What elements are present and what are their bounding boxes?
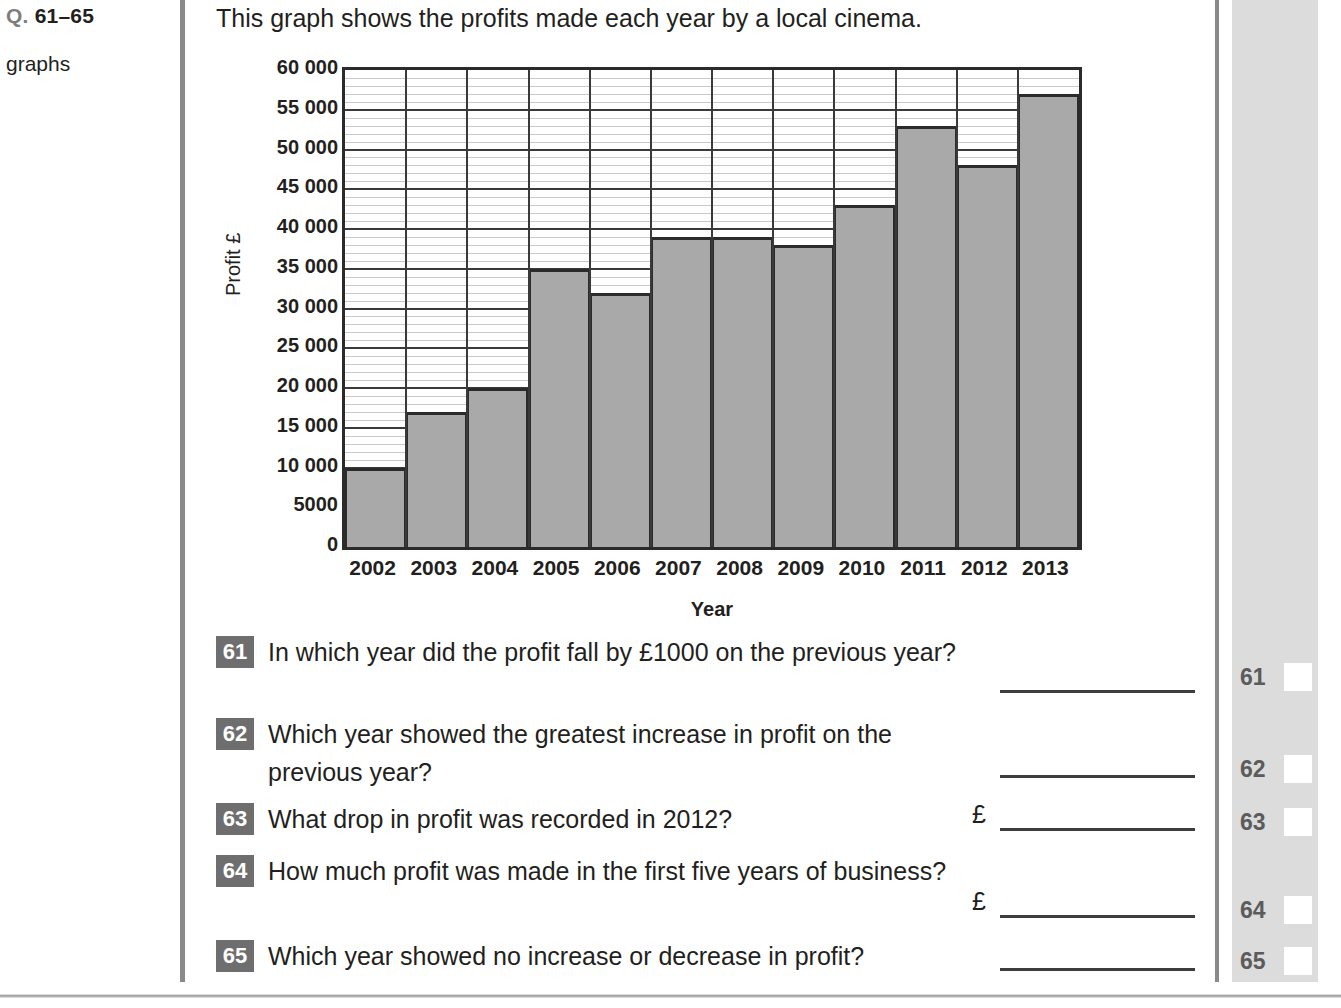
question-text-61: In which year did the profit fall by £10…	[268, 633, 968, 671]
worksheet-page: Q. 61–65 graphs This graph shows the pro…	[0, 0, 1341, 1008]
bottom-rule	[0, 994, 1341, 998]
y-tick-label: 15 000	[242, 415, 338, 435]
marking-number-64: 64	[1240, 893, 1266, 927]
column-separator	[405, 70, 407, 547]
answer-line-63[interactable]	[1000, 828, 1195, 831]
marking-row-64: 64	[1232, 893, 1318, 927]
intro-text: This graph shows the profits made each y…	[216, 2, 922, 34]
x-tick-label-2013: 2013	[1015, 556, 1076, 580]
column-separator	[1017, 70, 1019, 547]
column-separator	[466, 70, 468, 547]
left-vertical-divider	[180, 0, 185, 982]
question-prefix: Q.	[6, 4, 29, 27]
y-tick-label: 35 000	[242, 256, 338, 276]
answer-line-64[interactable]	[1000, 915, 1195, 918]
question-range: 61–65	[35, 4, 94, 27]
column-separator	[956, 70, 958, 547]
bar-2003	[406, 412, 467, 547]
bar-2004	[467, 388, 528, 547]
question-number-badge-62: 62	[216, 718, 254, 750]
marking-number-61: 61	[1240, 660, 1266, 694]
x-tick-label-2008: 2008	[709, 556, 770, 580]
marking-row-65: 65	[1232, 944, 1318, 978]
answer-line-65[interactable]	[1000, 968, 1195, 971]
answer-line-62[interactable]	[1000, 775, 1195, 778]
y-tick-label: 20 000	[242, 375, 338, 395]
marking-number-63: 63	[1240, 805, 1266, 839]
column-separator	[772, 70, 774, 547]
left-margin: Q. 61–65 graphs	[0, 0, 180, 1008]
bar-2010	[834, 205, 895, 547]
question-number-badge-63: 63	[216, 803, 254, 835]
x-tick-label-2009: 2009	[770, 556, 831, 580]
column-separator	[650, 70, 652, 547]
marking-box-62[interactable]	[1284, 755, 1312, 783]
marking-number-62: 62	[1240, 752, 1266, 786]
x-tick-label-2011: 2011	[893, 556, 954, 580]
bar-2007	[651, 237, 712, 547]
marking-row-63: 63	[1232, 805, 1318, 839]
question-number-badge-65: 65	[216, 940, 254, 972]
bar-2012	[957, 165, 1018, 547]
currency-symbol-64: £	[972, 887, 986, 916]
bar-2002	[345, 468, 406, 548]
marking-box-64[interactable]	[1284, 896, 1312, 924]
plot-area	[342, 67, 1082, 550]
marking-strip: 6162636465	[1232, 0, 1318, 982]
y-tick-label: 55 000	[242, 97, 338, 117]
y-tick-label: 30 000	[242, 296, 338, 316]
y-tick-label: 60 000	[242, 57, 338, 77]
profit-bar-chart: Profit £ 60 00055 00050 00045 00040 0003…	[216, 58, 1096, 628]
currency-symbol-63: £	[972, 800, 986, 829]
topic-label: graphs	[6, 52, 70, 76]
question-number-badge-64: 64	[216, 855, 254, 887]
x-axis-label: Year	[342, 598, 1082, 621]
x-tick-label-2003: 2003	[403, 556, 464, 580]
column-separator	[833, 70, 835, 547]
question-text-63: What drop in profit was recorded in 2012…	[268, 800, 968, 838]
column-separator	[528, 70, 530, 547]
marking-row-62: 62	[1232, 752, 1318, 786]
y-tick-label: 0	[242, 534, 338, 554]
column-separator	[895, 70, 897, 547]
marking-box-61[interactable]	[1284, 663, 1312, 691]
marking-box-63[interactable]	[1284, 808, 1312, 836]
bar-2013	[1018, 94, 1079, 547]
bar-2011	[896, 126, 957, 547]
x-tick-label-2012: 2012	[954, 556, 1015, 580]
question-text-64: How much profit was made in the first fi…	[268, 852, 968, 890]
x-tick-label-2002: 2002	[342, 556, 403, 580]
bar-2009	[773, 245, 834, 547]
y-tick-label: 10 000	[242, 455, 338, 475]
column-separator	[711, 70, 713, 547]
question-range-label: Q. 61–65	[6, 4, 94, 28]
marking-box-65[interactable]	[1284, 947, 1312, 975]
marking-row-61: 61	[1232, 660, 1318, 694]
x-tick-label-2010: 2010	[831, 556, 892, 580]
answer-line-61[interactable]	[1000, 690, 1195, 693]
question-text-65: Which year showed no increase or decreas…	[268, 937, 968, 975]
question-text-62: Which year showed the greatest increase …	[268, 715, 968, 791]
x-tick-label-2006: 2006	[587, 556, 648, 580]
marking-number-65: 65	[1240, 944, 1266, 978]
question-number-badge-61: 61	[216, 636, 254, 668]
bar-2006	[590, 293, 651, 547]
y-axis-ticks: 60 00055 00050 00045 00040 00035 00030 0…	[216, 58, 338, 550]
x-tick-label-2004: 2004	[464, 556, 525, 580]
x-tick-label-2007: 2007	[648, 556, 709, 580]
plot-inner	[345, 70, 1079, 547]
right-vertical-divider	[1215, 0, 1219, 982]
y-tick-label: 40 000	[242, 216, 338, 236]
bar-2008	[712, 237, 773, 547]
column-separator	[589, 70, 591, 547]
x-tick-label-2005: 2005	[526, 556, 587, 580]
y-tick-label: 45 000	[242, 176, 338, 196]
y-tick-label: 25 000	[242, 335, 338, 355]
y-tick-label: 5000	[242, 494, 338, 514]
y-tick-label: 50 000	[242, 137, 338, 157]
bar-2005	[529, 269, 590, 547]
